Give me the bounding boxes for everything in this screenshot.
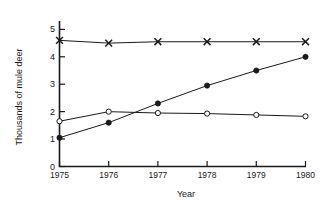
data-point-marker-open <box>106 109 111 114</box>
data-point-marker-filled <box>303 54 308 59</box>
y-tick-label: 1 <box>50 134 55 144</box>
data-point-marker-open <box>57 119 62 124</box>
series-open-circle-series <box>57 109 308 124</box>
x-tick-label: 1980 <box>296 170 315 180</box>
y-tick-label: 5 <box>50 24 55 34</box>
data-point-marker-filled <box>106 120 111 125</box>
y-tick-label: 2 <box>50 107 55 117</box>
line-chart: Thousands of mule deer Year 0 1 2 3 4 5 <box>0 0 322 205</box>
x-tick-label: 1978 <box>198 170 217 180</box>
x-tick-label: 1976 <box>99 170 118 180</box>
y-tick-label: 4 <box>50 52 55 62</box>
data-point-marker-open <box>254 112 259 117</box>
chart-container: Thousands of mule deer Year 0 1 2 3 4 5 <box>0 0 322 205</box>
y-axis-title: Thousands of mule deer <box>14 48 24 145</box>
data-point-marker-open <box>205 111 210 116</box>
series-line <box>60 112 306 122</box>
data-point-marker-filled <box>254 68 259 73</box>
y-tick-label: 3 <box>50 79 55 89</box>
x-axis-tick-labels: 1975 1976 1977 1978 1979 1980 <box>50 170 315 180</box>
x-axis-title: Year <box>177 189 195 199</box>
y-axis-ticks <box>60 29 66 166</box>
x-tick-label: 1977 <box>148 170 167 180</box>
data-point-marker-open <box>303 114 308 119</box>
y-axis-tick-labels: 0 1 2 3 4 5 <box>50 24 55 171</box>
x-tick-label: 1979 <box>247 170 266 180</box>
series-line <box>60 40 306 43</box>
series-x-series <box>56 37 309 47</box>
x-axis-ticks <box>60 161 306 167</box>
series-filled-circle-series <box>57 54 308 140</box>
data-point-marker-filled <box>205 83 210 88</box>
x-tick-label: 1975 <box>50 170 69 180</box>
series-layer <box>56 37 309 140</box>
data-point-marker-filled <box>155 101 160 106</box>
data-point-marker-filled <box>57 135 62 140</box>
data-point-marker-open <box>155 110 160 115</box>
series-line <box>60 57 306 138</box>
